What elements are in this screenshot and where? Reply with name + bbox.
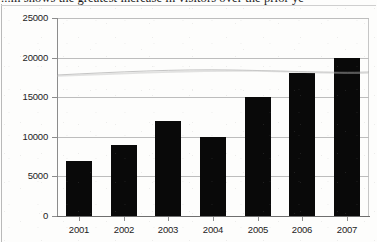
y-axis-tick-label: 15000 [0, 91, 48, 102]
bar [111, 145, 137, 216]
x-axis-tick-mark [168, 217, 169, 221]
x-axis-tick-label: 2006 [280, 224, 324, 235]
bar [334, 58, 360, 216]
x-axis-tick-mark [347, 217, 348, 221]
scanned-page: ...m shows the greatest increase in visi… [0, 0, 377, 242]
x-axis-tick-label: 2004 [191, 224, 235, 235]
y-axis-tick-label: 20000 [0, 52, 48, 63]
y-axis-tick-mark [52, 216, 57, 217]
y-axis-tick-label: 10000 [0, 131, 48, 142]
x-axis-tick-mark [124, 217, 125, 221]
y-axis-tick-label: 25000 [0, 12, 48, 23]
y-axis-tick-label: 0 [0, 210, 48, 221]
x-axis-tick-label: 2007 [325, 224, 369, 235]
x-axis-tick-label: 2002 [102, 224, 146, 235]
bar [245, 97, 271, 216]
x-axis-tick-label: 2003 [146, 224, 190, 235]
x-axis-tick-mark [79, 217, 80, 221]
page-frame-top-edge [1, 5, 376, 6]
x-axis-tick-mark [258, 217, 259, 221]
x-axis-tick-mark [213, 217, 214, 221]
page-frame-left-edge [1, 4, 2, 242]
y-axis-tick-label: 5000 [0, 170, 48, 181]
bar [155, 121, 181, 216]
bar [200, 137, 226, 216]
x-axis-tick-label: 2005 [236, 224, 280, 235]
x-axis-tick-label: 2001 [57, 224, 101, 235]
bar [289, 73, 315, 216]
bar-series [57, 18, 369, 216]
bar [66, 161, 92, 216]
x-axis-tick-mark [302, 217, 303, 221]
